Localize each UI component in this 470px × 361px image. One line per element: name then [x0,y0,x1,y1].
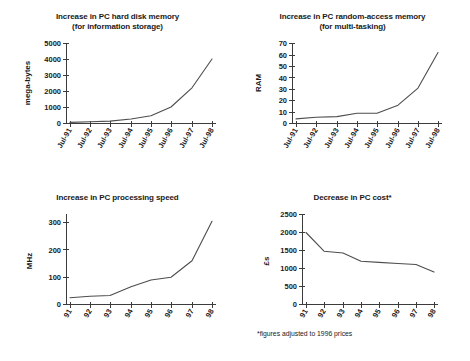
y-tick-label: 10 [279,108,287,117]
data-series-line [70,59,212,122]
y-tick-label: 5000 [44,39,61,48]
x-tick-label: 93 [335,308,347,320]
x-tick-labels: Jul-91 Jul-92 Jul-93 Jul-94 Jul-95 Jul-9… [55,126,216,150]
x-tick-labels: 91 92 93 94 95 96 97 98 [62,307,216,319]
y-tick-label: 100 [48,273,61,282]
y-axis-title: mega-bytes [23,60,32,105]
x-tick-label: Jul-95 [362,127,381,150]
x-tick-label: Jul-97 [177,127,196,150]
y-tick-label: 0 [57,300,61,309]
y-tick-label: 4000 [44,55,61,64]
y-tick-label: 300 [48,218,61,227]
x-tick-label: Jul-95 [136,127,155,150]
x-tick-label: Jul-92 [301,127,320,150]
x-tick-label: 94 [123,307,135,319]
y-tick-label: 40 [279,74,287,83]
chart-footnote: *figures adjusted to 1996 prices [257,330,352,337]
x-tick-label: 96 [163,308,175,320]
y-tick-label: 0 [57,119,61,128]
y-tick-label: 0 [283,119,287,128]
x-tick-label: Jul-98 [423,127,442,150]
y-tick-label: 70 [279,39,287,48]
x-tick-label: Jul-91 [55,127,74,150]
x-tick-label: Jul-94 [342,126,361,150]
y-tick-label: 1000 [44,103,61,112]
figure-panel-grid: Increase in PC hard disk memory (for inf… [0,0,470,361]
x-tick-label: Jul-92 [75,127,94,150]
plot-area-random-access-memory: 0 10 20 30 40 50 60 70 RAM Jul-91 Jul-92… [235,0,470,180]
y-tick-label: 1000 [280,264,297,273]
x-tick-label: Jul-93 [322,127,341,150]
x-tick-label: 95 [371,308,383,320]
x-tick-label: 98 [204,308,216,320]
x-tick-label: 97 [408,308,420,320]
x-tick-label: Jul-91 [281,127,300,150]
y-tick-label: 60 [279,51,287,60]
y-tick-label: 2500 [280,210,297,219]
y-tick-labels: 0 1000 2000 3000 4000 5000 [44,39,61,128]
x-tick-label: 92 [316,308,328,320]
y-tick-label: 0 [293,300,297,309]
x-tick-label: 91 [298,308,310,320]
data-series-line [70,221,212,298]
y-tick-labels: 0 100 200 300 [48,218,61,309]
chart-panel-pc-cost: Decrease in PC cost* [235,181,470,361]
y-tick-label: 2000 [44,87,61,96]
plot-area-hard-disk-memory: 0 1000 2000 3000 4000 5000 mega-bytes Ju… [0,0,235,180]
y-axis-title: £s [262,256,271,265]
x-tick-label: Jul-93 [95,127,114,150]
chart-panel-processing-speed: Increase in PC processing speed [0,181,235,361]
x-tick-label: 93 [102,308,114,320]
y-tick-label: 2000 [280,228,297,237]
x-tick-label: Jul-94 [116,126,135,150]
y-axis-title: MHz [25,253,34,269]
x-tick-labels: 91 92 93 94 95 96 97 98 [298,307,438,319]
y-tick-label: 20 [279,96,287,105]
x-tick-label: 97 [184,308,196,320]
y-tick-labels: 0 500 1000 1500 2000 2500 [280,210,297,309]
x-tick-label: 98 [426,308,438,320]
chart-panel-random-access-memory: Increase in PC random-access memory (for… [235,0,470,180]
x-tick-label: Jul-97 [403,127,422,150]
x-tick-label: 92 [82,308,94,320]
x-tick-label: Jul-96 [383,127,402,150]
plot-svg-random-access-memory: 0 10 20 30 40 50 60 70 RAM Jul-91 Jul-92… [235,0,470,180]
y-tick-label: 50 [279,62,287,71]
chart-panel-hard-disk-memory: Increase in PC hard disk memory (for inf… [0,0,235,180]
y-tick-label: 3000 [44,71,61,80]
x-tick-label: 95 [143,308,155,320]
y-tick-labels: 0 10 20 30 40 50 60 70 [279,39,287,128]
x-tick-label: Jul-98 [197,127,216,150]
y-tick-label: 30 [279,85,287,94]
y-tick-label: 500 [284,282,297,291]
x-tick-label: 91 [62,308,74,320]
data-series-line [296,53,438,119]
plot-svg-processing-speed: 0 100 200 300 MHz 91 92 93 94 95 96 97 9… [0,181,235,361]
x-tick-label: 94 [353,307,365,319]
data-series-line [306,233,434,273]
plot-svg-hard-disk-memory: 0 1000 2000 3000 4000 5000 mega-bytes Ju… [0,0,235,180]
y-tick-label: 1500 [280,246,297,255]
x-tick-label: Jul-96 [156,127,175,150]
x-tick-labels: Jul-91 Jul-92 Jul-93 Jul-94 Jul-95 Jul-9… [281,126,442,150]
y-axis-title: RAM [254,74,263,93]
y-tick-label: 200 [48,246,61,255]
plot-area-processing-speed: 0 100 200 300 MHz 91 92 93 94 95 96 97 9… [0,181,235,361]
x-tick-label: 96 [390,308,402,320]
